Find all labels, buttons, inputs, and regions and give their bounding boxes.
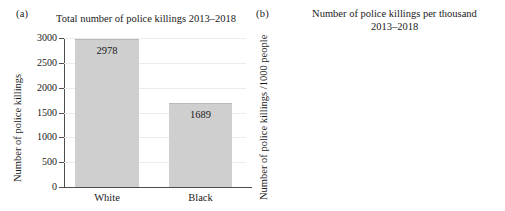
- y-tick-mark: [59, 63, 64, 64]
- y-tick-mark: [59, 113, 64, 114]
- figure-two-panel-bar-charts: (a) Total number of police killings 2013…: [0, 0, 505, 211]
- panel-b-title-line2: 2013–2018: [292, 21, 497, 34]
- y-tick-label: 1500: [37, 108, 57, 118]
- y-tick-label: 2000: [37, 83, 57, 93]
- y-tick-label: 3000: [37, 33, 57, 43]
- x-category-label-white: White: [75, 192, 139, 203]
- bar-value-label: 1689: [169, 109, 232, 120]
- y-tick-mark: [59, 137, 64, 138]
- panel-b-tag: (b): [256, 8, 269, 19]
- y-tick-mark: [59, 162, 64, 163]
- panel-b: (b) Number of police killings per thousa…: [250, 0, 505, 211]
- x-category-label-black: Black: [169, 192, 232, 203]
- y-tick-mark: [59, 187, 64, 188]
- panel-a-plot-area: 050010001500200025003000 2978White1689Bl…: [64, 38, 246, 188]
- bar-black: 1689Black: [169, 103, 232, 187]
- y-tick-mark: [59, 88, 64, 89]
- panel-a-y-axis-label: Number of police killings: [12, 74, 23, 182]
- y-tick-label: 500: [42, 157, 57, 167]
- y-tick-label: 1000: [37, 132, 57, 142]
- panel-a-tag: (a): [16, 8, 28, 19]
- panel-a-x-axis-line: [64, 187, 252, 188]
- bar-white: 2978White: [75, 39, 139, 187]
- y-tick-label: 0: [52, 182, 57, 192]
- panel-a-title: Total number of police killings 2013–201…: [46, 13, 246, 26]
- y-tick-mark: [59, 38, 64, 39]
- panel-b-title-line1: Number of police killings per thousand: [292, 8, 497, 21]
- panel-a: (a) Total number of police killings 2013…: [0, 0, 250, 211]
- panel-b-title: Number of police killings per thousand 2…: [292, 8, 497, 33]
- bar-value-label: 2978: [75, 45, 139, 56]
- panel-b-y-axis-label: Number of police killings /1000 people: [258, 35, 269, 200]
- y-tick-label: 2500: [37, 58, 57, 68]
